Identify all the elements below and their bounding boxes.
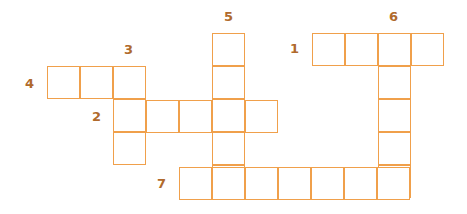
crossword-cell-3-down-2[interactable] [113,99,146,132]
crossword-cell-4-across-2[interactable] [80,66,113,99]
crossword-cell-1-across-3[interactable] [378,33,411,66]
crossword-cell-7-across-6[interactable] [344,167,377,200]
crossword-cell-5-down-4[interactable] [212,132,245,165]
crossword-cell-4-across-1[interactable] [47,66,80,99]
crossword-cell-6-down-4[interactable] [378,132,411,165]
clue-number-6: 6 [389,10,398,23]
crossword-cell-3-down-1[interactable] [113,66,146,99]
crossword-cell-6-down-2[interactable] [378,66,411,99]
crossword-cell-7-across-3[interactable] [245,167,278,200]
crossword-cell-6-down-3[interactable] [378,99,411,132]
clue-number-1: 1 [290,42,299,55]
crossword-cell-7-across-1[interactable] [179,167,212,200]
clue-number-4: 4 [25,77,34,90]
crossword-grid: 1234567 [0,0,467,214]
clue-number-2: 2 [92,110,101,123]
crossword-cell-7-across-7[interactable] [377,167,410,200]
crossword-cell-1-across-2[interactable] [345,33,378,66]
crossword-cell-5-down-2[interactable] [212,66,245,99]
clue-number-7: 7 [157,177,166,190]
crossword-cell-1-across-1[interactable] [312,33,345,66]
clue-number-3: 3 [124,43,133,56]
crossword-cell-2-across-5[interactable] [245,100,278,133]
crossword-cell-5-down-1[interactable] [212,33,245,66]
crossword-cell-5-down-3[interactable] [212,99,245,132]
crossword-cell-7-across-4[interactable] [278,167,311,200]
crossword-cell-3-down-3[interactable] [113,132,146,165]
crossword-cell-7-across-2[interactable] [212,167,245,200]
crossword-cell-2-across-3[interactable] [179,100,212,133]
clue-number-5: 5 [224,10,233,23]
crossword-cell-2-across-2[interactable] [146,100,179,133]
crossword-cell-7-across-5[interactable] [311,167,344,200]
crossword-cell-1-across-4[interactable] [411,33,444,66]
